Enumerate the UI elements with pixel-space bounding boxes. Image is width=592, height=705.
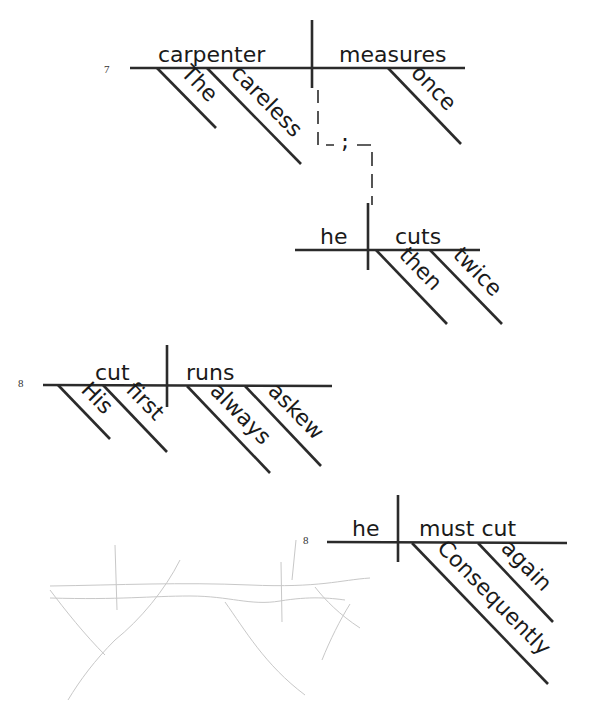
predicate-word: measures	[339, 42, 446, 67]
connector-semicolon: ;	[339, 129, 351, 153]
diagram-number: 8	[303, 534, 309, 546]
diagram-7: 7 carpenter measures The careless once ;…	[104, 20, 507, 324]
connector-dashed-line	[357, 145, 372, 205]
modifier-word: Consequently	[432, 535, 556, 660]
subject-word: he	[320, 224, 347, 249]
diagram-number: 8	[18, 377, 24, 389]
diagram-number: 7	[104, 63, 110, 75]
predicate-word: must cut	[419, 516, 516, 541]
subject-word: carpenter	[158, 42, 266, 67]
diagram-8b: 8 he must cut Consequently again	[303, 495, 567, 684]
diagram-8a: 8 cut runs His first always askew	[18, 345, 332, 473]
subject-word: he	[352, 516, 379, 541]
connector-dashed-line	[318, 90, 334, 145]
subject-word: cut	[95, 360, 130, 385]
modifier-word: always	[205, 378, 276, 449]
sentence-diagram-canvas: 7 carpenter measures The careless once ;…	[0, 0, 592, 705]
pencil-scribbles	[50, 540, 370, 700]
predicate-word: cuts	[395, 224, 441, 249]
